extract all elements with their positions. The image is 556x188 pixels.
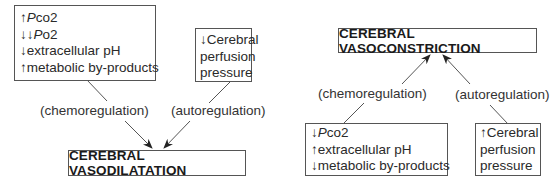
chemo-arrow-left [125,121,152,148]
vasoconstriction-title: CEREBRAL VASOCONSTRICTION [339,26,536,56]
stimulus-line: ↑metabolic by-products [20,60,150,77]
stimulus-line: ↑extracellular pH [311,142,442,159]
vasoconstriction-chemical-stimuli-box: ↓Pco2 ↑extracellular pH ↓metabolic by-pr… [305,123,448,176]
auto-connector-left [209,82,230,103]
vasodilatation-chemical-stimuli-box: ↑Pco2 ↓↓Po2 ↓extracellular pH ↑metabolic… [14,5,156,81]
perfusion-line: ↓Cerebral [200,32,247,49]
chemo-arrow-right [402,55,430,84]
vasodilatation-perfusion-box: ↓Cerebral perfusion pressure [195,28,252,82]
vasodilatation-title: CEREBRAL VASODILATATION [69,148,245,178]
vasoconstriction-outcome-box: CEREBRAL VASOCONSTRICTION [338,28,537,53]
perfusion-line: pressure [200,65,247,82]
chemo-connector-left [87,80,107,101]
perfusion-line: pressure [480,158,536,175]
chemoregulation-label-right: (chemoregulation) [318,86,427,101]
stimulus-line: ↓extracellular pH [20,43,150,60]
stimulus-line: ↓↓Po2 [20,27,150,44]
chemoregulation-label-left: (chemoregulation) [40,103,149,118]
vasodilatation-outcome-box: CEREBRAL VASODILATATION [68,150,246,176]
perfusion-line: perfusion [200,49,247,66]
perfusion-line: perfusion [480,142,536,159]
stimulus-line: ↑Pco2 [20,10,150,27]
stimulus-line: ↓Pco2 [311,125,442,142]
perfusion-line: ↑Cerebral [480,125,536,142]
auto-arrow-right [443,55,470,84]
stimulus-line: ↓metabolic by-products [311,158,442,175]
auto-arrow-left [164,121,190,148]
auto-connector-right [490,105,508,124]
autoregulation-label-right: (autoregulation) [455,87,550,102]
autoregulation-label-left: (autoregulation) [171,103,266,118]
vasoconstriction-perfusion-box: ↑Cerebral perfusion pressure [475,123,541,176]
chemo-connector-right [344,103,364,123]
